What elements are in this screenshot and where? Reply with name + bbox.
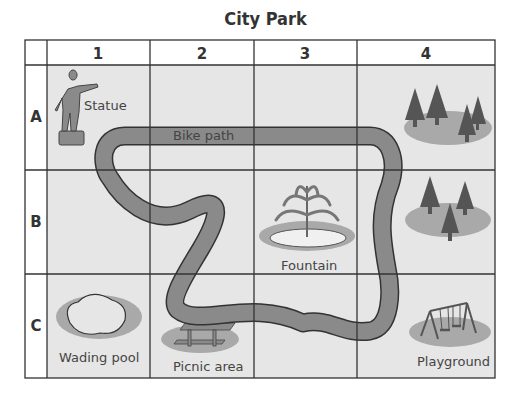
playground-label: Playground [417, 354, 490, 369]
picnic-area-label: Picnic area [173, 359, 243, 374]
column-header-4: 4 [421, 45, 431, 63]
row-header-c: C [30, 317, 41, 335]
column-header-1: 1 [93, 45, 103, 63]
fountain-label: Fountain [281, 258, 337, 273]
park-map: 1 2 3 4 A B C Statue Bike path Fountain … [0, 0, 531, 398]
statue-label: Statue [84, 98, 127, 113]
column-header-2: 2 [197, 45, 207, 63]
wading-pool-label: Wading pool [59, 350, 139, 365]
column-header-3: 3 [300, 45, 310, 63]
row-header-b: B [30, 213, 41, 231]
row-header-a: A [30, 108, 42, 126]
bike-path-label: Bike path [173, 128, 234, 143]
